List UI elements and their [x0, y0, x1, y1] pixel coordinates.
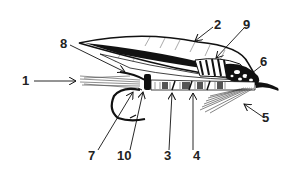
label-10: 10 — [117, 148, 131, 163]
label-2: 2 — [214, 17, 221, 32]
throat-hackle — [200, 88, 254, 113]
label-3: 3 — [164, 148, 171, 163]
butt — [144, 74, 151, 90]
body — [151, 80, 255, 90]
label-7: 7 — [88, 148, 95, 163]
head — [255, 82, 279, 91]
label-4: 4 — [193, 148, 201, 163]
label-5: 5 — [262, 110, 269, 125]
tail — [80, 72, 145, 88]
label-9: 9 — [243, 17, 250, 32]
label-1: 1 — [22, 73, 29, 88]
label-8: 8 — [60, 36, 67, 51]
label-6: 6 — [260, 54, 267, 69]
fly-diagram: 1 2 3 4 5 6 7 8 9 10 — [0, 0, 293, 169]
